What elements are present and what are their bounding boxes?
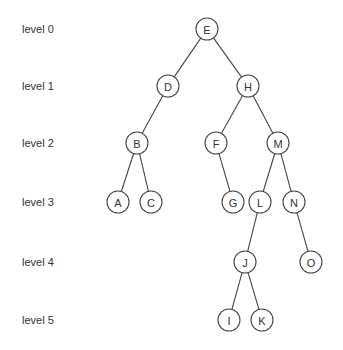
tree-node-O: O <box>300 251 322 273</box>
edge-B-C <box>140 154 149 192</box>
edge-H-M <box>253 96 273 134</box>
edge-E-H <box>213 38 241 77</box>
edge-M-N <box>281 154 291 192</box>
node-label: G <box>229 197 238 209</box>
tree-node-H: H <box>237 75 259 97</box>
edge-N-O <box>297 213 308 252</box>
tree-node-F: F <box>205 132 227 154</box>
level-label-0: level 0 <box>22 23 54 35</box>
level-label-4: level 4 <box>22 256 54 268</box>
tree-nodes: EDHBFMACGLNJOIK <box>107 18 322 331</box>
node-label: F <box>213 138 220 150</box>
node-label: O <box>307 257 316 269</box>
node-label: A <box>114 197 122 209</box>
tree-node-A: A <box>107 191 129 213</box>
node-label: K <box>258 315 266 327</box>
edge-B-A <box>121 153 133 191</box>
tree-edges <box>121 38 308 310</box>
tree-node-L: L <box>249 191 271 213</box>
level-label-5: level 5 <box>22 314 54 326</box>
edge-J-I <box>232 273 242 310</box>
node-label: M <box>273 138 282 150</box>
tree-node-E: E <box>196 18 218 40</box>
node-label: H <box>244 81 252 93</box>
edge-L-J <box>248 213 258 252</box>
level-label-2: level 2 <box>22 137 54 149</box>
node-label: N <box>290 197 298 209</box>
edge-M-L <box>263 154 275 192</box>
tree-node-G: G <box>222 191 244 213</box>
node-label: L <box>257 197 263 209</box>
node-label: B <box>133 138 140 150</box>
edge-H-F <box>221 96 242 134</box>
node-label: C <box>147 197 155 209</box>
tree-node-B: B <box>126 132 148 154</box>
level-label-1: level 1 <box>22 80 54 92</box>
tree-diagram: level 0level 1level 2level 3level 4level… <box>0 0 343 350</box>
node-label: I <box>227 315 230 327</box>
level-label-3: level 3 <box>22 196 54 208</box>
node-label: E <box>203 24 210 36</box>
tree-node-D: D <box>157 75 179 97</box>
node-label: D <box>164 81 172 93</box>
tree-node-I: I <box>218 309 240 331</box>
tree-node-M: M <box>267 132 289 154</box>
edge-E-D <box>174 38 201 77</box>
edge-D-B <box>142 96 162 134</box>
edge-J-K <box>248 273 259 310</box>
tree-node-N: N <box>283 191 305 213</box>
node-label: J <box>242 257 248 269</box>
tree-node-K: K <box>251 309 273 331</box>
level-labels: level 0level 1level 2level 3level 4level… <box>22 23 54 326</box>
tree-node-C: C <box>140 191 162 213</box>
edge-F-G <box>219 154 230 192</box>
tree-node-J: J <box>234 251 256 273</box>
